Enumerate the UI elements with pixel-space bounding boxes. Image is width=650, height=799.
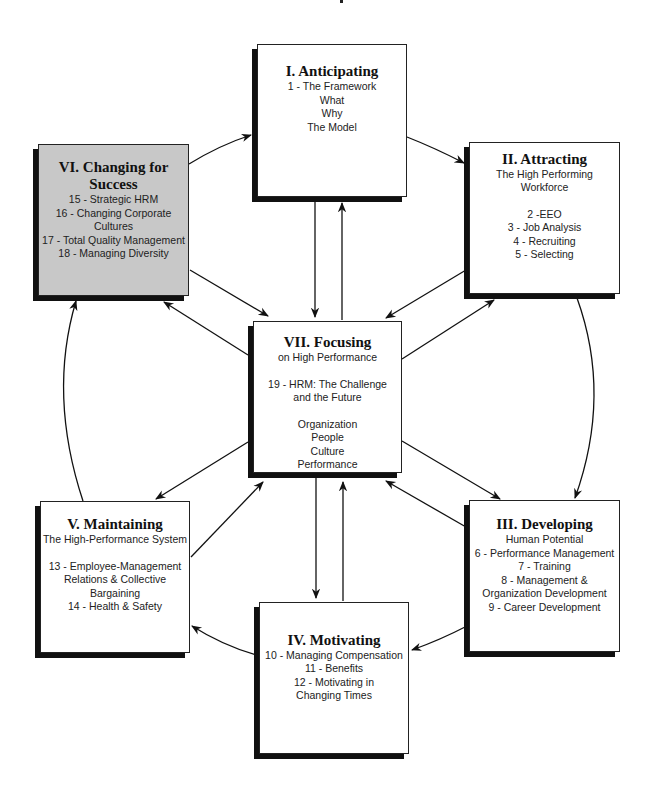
node-line: Bargaining <box>90 587 140 601</box>
node-title: I. Anticipating <box>286 63 379 80</box>
node-line: and the Future <box>293 391 361 405</box>
arrow-vi-to-i <box>189 135 251 164</box>
arrow-v-to-vi <box>64 301 83 501</box>
arrow-vii-to-v <box>156 442 248 499</box>
node-line: on High Performance <box>278 351 377 365</box>
node-line: People <box>311 431 344 445</box>
node-vii-focusing: VII. Focusing on High Performance 19 - H… <box>253 321 402 473</box>
node-line: What <box>320 94 345 108</box>
node-ii-attracting: II. Attracting The High Performing Workf… <box>469 142 620 294</box>
node-line: Cultures <box>94 220 133 234</box>
node-line: The High Performing <box>496 168 593 182</box>
node-line: 5 - Selecting <box>515 248 573 262</box>
node-line: Organization <box>298 418 358 432</box>
node-line: 1 - The Framework <box>288 80 377 94</box>
node-title: VI. Changing for <box>59 159 169 176</box>
arrow-vii-to-ii <box>402 300 494 359</box>
node-title: VII. Focusing <box>284 334 372 351</box>
node-line: 15 - Strategic HRM <box>69 193 158 207</box>
node-line: 17 - Total Quality Management <box>42 234 185 248</box>
node-line: Relations & Collective <box>64 573 166 587</box>
arrow-iv-to-v <box>192 626 256 655</box>
node-i-anticipating: I. Anticipating 1 - The Framework What W… <box>257 44 407 197</box>
node-line: 4 - Recruiting <box>513 235 575 249</box>
node-iii-developing: III. Developing Human Potential 6 - Perf… <box>469 500 620 652</box>
node-v-maintaining: V. Maintaining The High-Performance Syst… <box>40 501 190 653</box>
node-line: Culture <box>311 445 345 459</box>
node-iv-motivating: IV. Motivating 10 - Managing Compensatio… <box>259 602 409 754</box>
node-line: 9 - Career Development <box>488 601 600 615</box>
node-line: Changing Times <box>296 689 372 703</box>
node-title: Success <box>89 176 137 193</box>
arrow-iii-to-iv <box>412 626 467 650</box>
node-line: 7 - Training <box>518 560 571 574</box>
node-line: 19 - HRM: The Challenge <box>268 378 387 392</box>
node-vi-changing-for-success: VI. Changing for Success 15 - Strategic … <box>38 144 189 296</box>
node-line: 10 - Managing Compensation <box>265 649 403 663</box>
node-line: 13 - Employee-Management <box>49 560 182 574</box>
node-line: 14 - Health & Safety <box>68 600 162 614</box>
node-title: II. Attracting <box>502 151 587 168</box>
node-line: 8 - Management & <box>501 574 587 588</box>
node-line: 11 - Benefits <box>305 662 363 676</box>
node-line: 16 - Changing Corporate <box>56 207 172 221</box>
hrm-cycle-diagram: I. Anticipating 1 - The Framework What W… <box>0 0 650 799</box>
node-line: 3 - Job Analysis <box>508 221 582 235</box>
node-line: 2 -EEO <box>527 208 561 222</box>
arrow-i-to-ii <box>407 137 464 163</box>
node-line: 6 - Performance Management <box>475 547 614 561</box>
node-line: Human Potential <box>506 533 584 547</box>
arrow-ii-to-vii <box>386 270 466 318</box>
arrow-ii-to-iii <box>575 298 594 498</box>
arrow-v-to-vii <box>191 482 263 557</box>
node-line: Performance <box>297 458 357 472</box>
arrow-vi-to-vii <box>190 270 268 316</box>
arrow-vii-to-vi <box>164 302 248 355</box>
node-line: 12 - Motivating in <box>294 676 374 690</box>
node-title: III. Developing <box>496 516 593 533</box>
node-line: Why <box>322 107 343 121</box>
node-line: The High-Performance System <box>43 533 187 547</box>
node-line: Organization Development <box>482 587 606 601</box>
arrow-vii-to-iii <box>402 441 500 499</box>
node-line: 18 - Managing Diversity <box>58 247 168 261</box>
node-title: V. Maintaining <box>67 516 163 533</box>
node-line: The Model <box>307 121 357 135</box>
node-title: IV. Motivating <box>287 632 380 649</box>
node-line: Workforce <box>521 181 569 195</box>
arrow-iii-to-vii <box>386 481 466 527</box>
